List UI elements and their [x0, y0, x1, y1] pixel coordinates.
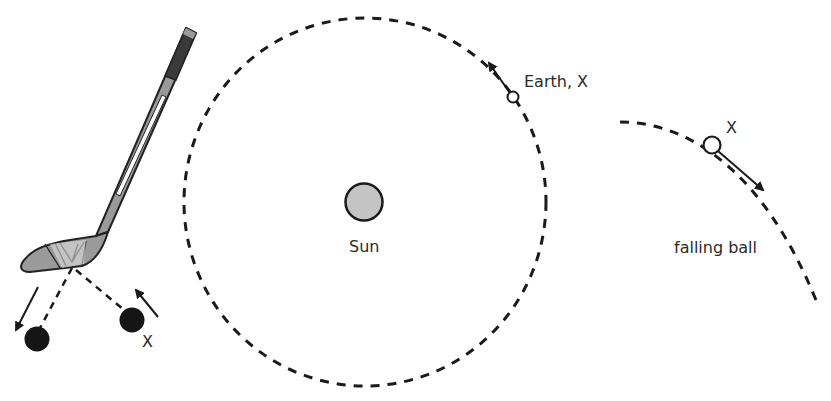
earth-icon — [508, 92, 519, 103]
earth-label: Earth, X — [524, 74, 588, 90]
sun-label: Sun — [349, 239, 379, 255]
falling-ball-x-label: X — [726, 120, 737, 136]
falling-ball-velocity-arrow — [718, 151, 763, 190]
earth-velocity-arrow — [489, 63, 510, 93]
physics-diagram — [0, 0, 831, 401]
falling-ball-caption: falling ball — [674, 240, 757, 256]
puck-x — [120, 308, 145, 333]
hockey-stick-icon — [21, 28, 196, 272]
puck-outgoing-arrow — [16, 287, 38, 330]
puck-trajectory — [40, 268, 124, 328]
sun-icon — [346, 184, 383, 221]
puck-outgoing — [25, 327, 50, 352]
falling-ball-icon — [704, 137, 721, 154]
puck-x-label: X — [142, 334, 153, 350]
